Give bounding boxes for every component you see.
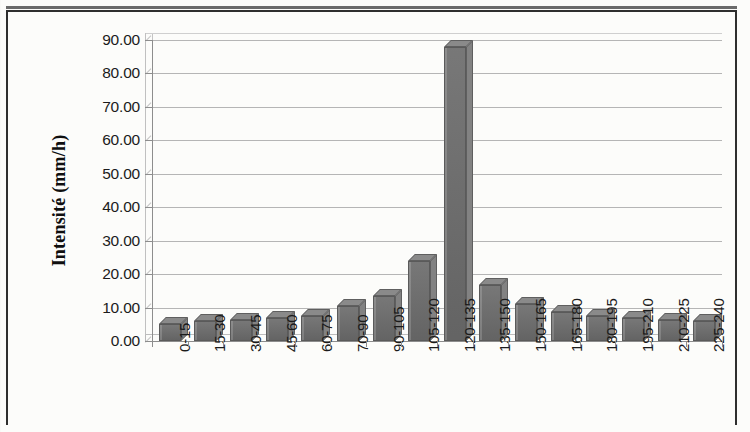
y-axis-title: Intensité (mm/h) xyxy=(49,76,70,326)
bar-chart: 0.0010.0020.0030.0040.0050.0060.0070.008… xyxy=(0,0,750,432)
y-tick-label: 0.00 xyxy=(56,332,140,350)
y-tick-mark xyxy=(145,274,152,275)
x-tick-label: 0-15 xyxy=(176,242,193,352)
x-tick-mark xyxy=(259,341,260,347)
y-axis-line xyxy=(152,40,153,341)
x-tick-mark xyxy=(508,341,509,347)
x-tick-mark xyxy=(223,341,224,347)
x-tick-label: 150-165 xyxy=(532,242,549,352)
y-tick-mark xyxy=(145,174,152,175)
y-tick-mark xyxy=(145,140,152,141)
x-tick-mark xyxy=(544,341,545,347)
x-tick-label: 135-150 xyxy=(496,242,513,352)
y-tick-mark xyxy=(145,40,152,41)
y-tick-mark xyxy=(145,341,152,342)
x-tick-mark xyxy=(722,341,723,347)
x-tick-label: 45-60 xyxy=(283,242,300,352)
x-tick-mark xyxy=(615,341,616,347)
x-tick-label: 105-120 xyxy=(425,242,442,352)
y-tick-label: 90.00 xyxy=(56,31,140,49)
x-tick-label: 195-210 xyxy=(639,242,656,352)
x-tick-mark xyxy=(152,341,153,347)
x-tick-label: 210-225 xyxy=(675,242,692,352)
y-tick-mark xyxy=(145,207,152,208)
y-tick-mark xyxy=(145,73,152,74)
x-tick-mark xyxy=(330,341,331,347)
x-tick-mark xyxy=(473,341,474,347)
x-tick-label: 180-195 xyxy=(603,242,620,352)
x-tick-label: 30-45 xyxy=(247,242,264,352)
x-tick-mark xyxy=(401,341,402,347)
x-tick-label: 225-240 xyxy=(710,242,727,352)
x-tick-mark xyxy=(437,341,438,347)
x-tick-label: 120-135 xyxy=(461,242,478,352)
x-tick-mark xyxy=(295,341,296,347)
y-axis-back-line xyxy=(145,33,146,334)
x-tick-mark xyxy=(651,341,652,347)
y-tick-mark xyxy=(145,241,152,242)
x-tick-label: 165-180 xyxy=(568,242,585,352)
x-tick-mark xyxy=(366,341,367,347)
x-tick-label: 60-75 xyxy=(318,242,335,352)
x-tick-mark xyxy=(686,341,687,347)
y-tick-mark xyxy=(145,107,152,108)
x-tick-label: 90-105 xyxy=(390,242,407,352)
x-tick-mark xyxy=(188,341,189,347)
x-tick-mark xyxy=(580,341,581,347)
x-tick-label: 70-90 xyxy=(354,242,371,352)
y-tick-mark xyxy=(145,308,152,309)
x-tick-label: 15-30 xyxy=(211,242,228,352)
